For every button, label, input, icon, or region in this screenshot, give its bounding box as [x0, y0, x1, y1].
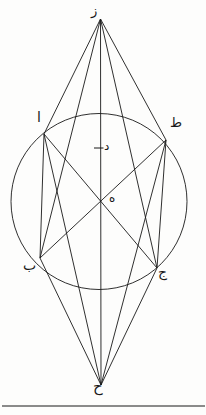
- segment-hah-jeem: [101, 268, 157, 385]
- segment-alif-bah: [40, 134, 44, 258]
- label-center: ه: [109, 192, 115, 204]
- segment-zay-alif: [44, 19, 101, 134]
- segment-tah-jeem: [157, 140, 166, 268]
- segment-hah-alif: [44, 134, 101, 385]
- segment-zay-bah: [40, 19, 101, 258]
- segment-hah-bah: [40, 258, 101, 385]
- geometry-canvas: [0, 0, 206, 415]
- label-upper-left: ا: [37, 110, 41, 124]
- label-apex-top: ز: [91, 4, 97, 17]
- geometry-figure: ز ا ط ب ج ح د ه: [0, 0, 206, 415]
- segment-zay-tah: [101, 19, 167, 140]
- label-lower-left: ب: [23, 258, 36, 272]
- label-lower-right: ج: [158, 265, 167, 279]
- label-diameter-point: د: [104, 140, 109, 152]
- label-upper-right: ط: [170, 116, 182, 129]
- segment-hah-tah: [101, 140, 166, 385]
- label-apex-bottom: ح: [93, 380, 103, 395]
